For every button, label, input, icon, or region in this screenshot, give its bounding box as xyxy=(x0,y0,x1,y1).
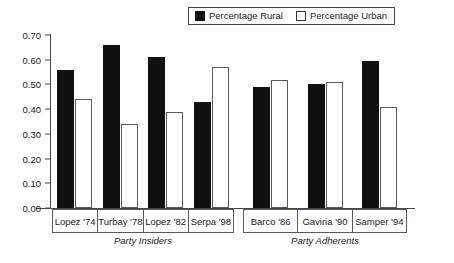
y-axis-tick-mark xyxy=(45,84,50,85)
category-label: Gaviria '90 xyxy=(298,210,352,232)
bar-urban xyxy=(212,67,229,208)
plot-area: 0.700.600.500.400.300.200.100.00 xyxy=(50,35,415,208)
y-axis-tick-mark xyxy=(45,208,50,209)
bar-urban xyxy=(75,99,92,208)
bar-rural xyxy=(148,57,165,208)
legend-entry-urban: Percentage Urban xyxy=(296,11,387,21)
category-label: Lopez '74 xyxy=(53,210,98,232)
bar-rural xyxy=(308,84,325,208)
category-label-box: Lopez '74Turbay '78Lopez '82Serpa '98 xyxy=(52,209,234,233)
y-axis-tick-mark xyxy=(45,59,50,60)
bar-rural xyxy=(194,102,211,208)
y-axis-tick-mark xyxy=(45,158,50,159)
y-axis-tick-mark xyxy=(45,133,50,134)
category-label: Samper '94 xyxy=(353,210,406,232)
bar-rural xyxy=(253,87,270,208)
legend-label-urban: Percentage Urban xyxy=(310,11,387,21)
bar-urban xyxy=(326,82,343,208)
group-title: Party Insiders xyxy=(52,235,234,246)
bar-urban xyxy=(271,80,288,209)
y-axis-tick-mark xyxy=(45,35,50,36)
y-axis-tick-mark xyxy=(45,109,50,110)
bar-urban xyxy=(380,107,397,208)
group-title: Party Adherents xyxy=(243,235,407,246)
bar-rural xyxy=(362,61,379,208)
chart-legend: Percentage Rural Percentage Urban xyxy=(188,7,395,25)
y-axis-tick-mark xyxy=(45,183,50,184)
open-square-icon xyxy=(296,11,306,21)
bar-rural xyxy=(57,70,74,208)
category-label: Turbay '78 xyxy=(98,210,143,232)
bar-urban xyxy=(121,124,138,208)
filled-square-icon xyxy=(195,11,205,21)
legend-label-rural: Percentage Rural xyxy=(209,11,283,21)
category-label: Serpa '98 xyxy=(189,210,233,232)
legend-entry-rural: Percentage Rural xyxy=(195,11,283,21)
bar-rural xyxy=(103,45,120,208)
category-label: Lopez '82 xyxy=(144,210,189,232)
bar-chart-figure: Percentage Rural Percentage Urban 0.700.… xyxy=(0,0,454,263)
bar-urban xyxy=(166,112,183,208)
category-label: Barco '86 xyxy=(244,210,298,232)
category-label-box: Barco '86Gaviria '90Samper '94 xyxy=(243,209,407,233)
